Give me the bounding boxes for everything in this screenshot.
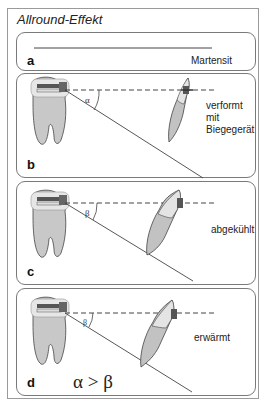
figure-title: Allround-Effekt [17,12,102,27]
panel-label-d: d [27,375,35,390]
incisor-tooth-icon [147,190,183,255]
angle-alpha: α [85,95,90,105]
panel-d: β erwärmt d α > β [16,288,256,396]
panel-c: β abgekühlt c [16,181,256,285]
verformt-label: verformt mit Biegegerät [206,100,255,136]
molar-tooth-icon [31,190,69,257]
angle-beta: β [85,208,90,218]
alpha-greater-beta: α > β [73,371,113,393]
angle-beta: β [83,318,87,327]
abgekuehlt-label: abgekühlt [211,224,254,236]
molar-tooth-icon [31,297,69,364]
panel-label-b: b [27,157,35,172]
panel-label-c: c [27,264,34,279]
martensit-label: Martensit [191,55,232,67]
panel-label-a: a [27,53,34,68]
erwaermt-label: erwärmt [194,332,230,344]
incisor-tooth-icon [141,300,177,367]
incisor-tooth-icon [169,78,193,142]
panel-b: α verformt mit Biegegerät b [16,73,256,178]
molar-tooth-icon [31,77,69,144]
panel-a: a Martensit [16,32,256,71]
